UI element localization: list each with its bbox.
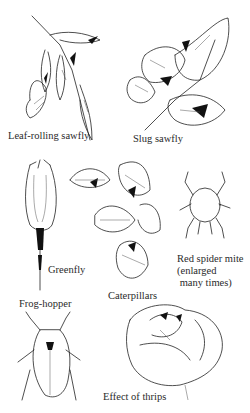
frog-hopper-drawing: [18, 312, 80, 400]
caption-effect-of-thrips: Effect of thrips: [103, 391, 166, 403]
caption-leaf-rolling-sawfly: Leaf-rolling sawfly: [8, 130, 89, 142]
effect-of-thrips-drawing: [126, 305, 222, 400]
red-spider-mite-drawing: [180, 172, 230, 238]
pest-illustration-plate: Leaf-rolling sawfly Slug sawfly Greenfly…: [0, 0, 250, 413]
caption-greenfly: Greenfly: [48, 264, 85, 276]
illustration-drawings: [0, 0, 250, 413]
leaf-rolling-sawfly-drawing: [26, 16, 100, 140]
caption-caterpillars: Caterpillars: [108, 290, 157, 302]
caption-red-spider-mite: Red spider mite (enlarged many times): [177, 253, 244, 289]
caption-frog-hopper: Frog-hopper: [19, 298, 72, 310]
caption-slug-sawfly: Slug sawfly: [133, 133, 183, 145]
caterpillars-drawing: [70, 162, 160, 278]
slug-sawfly-drawing: [127, 18, 229, 130]
